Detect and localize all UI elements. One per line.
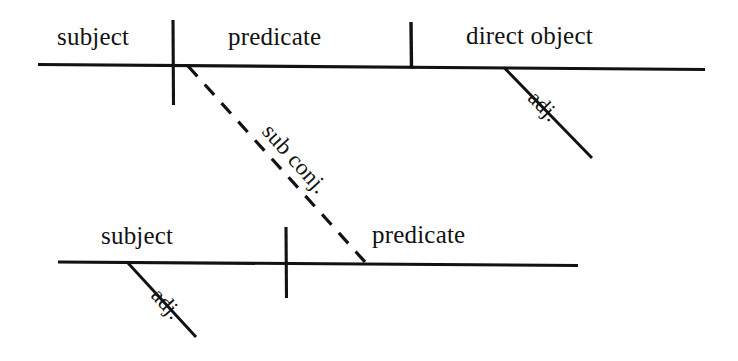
baseline-lower-clause xyxy=(58,262,578,266)
label-subject-lower: subject xyxy=(101,223,173,248)
diagram-lines xyxy=(0,0,738,361)
baseline-upper-clause xyxy=(38,65,705,70)
divider-subject-predicate-upper xyxy=(173,20,174,105)
label-direct-object: direct object xyxy=(466,23,593,48)
divider-subject-predicate-lower xyxy=(286,227,287,298)
label-predicate-lower: predicate xyxy=(372,222,465,247)
divider-predicate-object-upper xyxy=(411,22,412,69)
label-predicate-upper: predicate xyxy=(228,24,321,49)
label-subject-upper: subject xyxy=(57,24,129,49)
connector-sub-conj xyxy=(188,66,366,263)
sentence-diagram-canvas: subject predicate direct object adj. sub… xyxy=(0,0,738,361)
